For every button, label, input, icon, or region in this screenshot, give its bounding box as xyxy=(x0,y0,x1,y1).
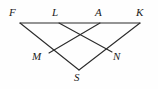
vertex-label-M: M xyxy=(32,51,41,62)
segment-LN xyxy=(59,23,112,52)
vertex-label-K: K xyxy=(136,7,143,18)
vertex-label-F: F xyxy=(9,7,16,18)
geometry-figure: F L A K M N S xyxy=(0,0,158,89)
segment-FS xyxy=(20,23,79,70)
vertex-label-S: S xyxy=(74,72,80,83)
segment-AM xyxy=(49,23,100,53)
vertex-label-L: L xyxy=(52,7,58,18)
vertex-label-A: A xyxy=(95,7,102,18)
vertex-label-N: N xyxy=(113,51,120,62)
segments-group xyxy=(20,23,140,70)
